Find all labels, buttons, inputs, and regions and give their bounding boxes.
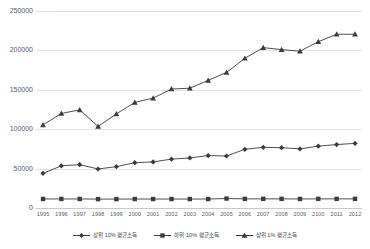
data-point-marker — [114, 197, 118, 201]
data-point-marker — [78, 197, 82, 201]
x-axis-tick-label: 2004 — [202, 211, 215, 217]
data-point-marker — [260, 45, 266, 50]
data-point-marker — [279, 197, 283, 201]
data-point-marker — [206, 153, 211, 158]
data-point-marker — [133, 197, 137, 201]
data-point-marker — [59, 197, 63, 201]
x-axis-tick-label: 1999 — [110, 211, 123, 217]
data-point-marker — [334, 142, 339, 147]
x-axis-tick-label: 2008 — [275, 211, 288, 217]
data-point-marker — [241, 233, 247, 238]
data-point-marker — [114, 164, 119, 169]
x-axis-tick-label: 2000 — [128, 211, 141, 217]
data-point-marker — [298, 197, 302, 201]
data-point-marker — [315, 39, 321, 44]
data-point-marker — [261, 145, 266, 150]
data-point-marker — [353, 197, 357, 201]
data-point-marker — [297, 146, 302, 151]
data-point-marker — [169, 157, 174, 162]
legend-marker-diamond-icon — [73, 231, 90, 240]
x-axis-tick-label: 1998 — [92, 211, 105, 217]
x-axis-tick-label: 2006 — [239, 211, 252, 217]
data-point-marker — [77, 107, 83, 112]
x-axis-tick-label: 2005 — [220, 211, 233, 217]
data-series — [41, 196, 357, 201]
data-point-marker — [279, 145, 284, 150]
legend-marker-square-icon — [154, 231, 171, 240]
series-line — [43, 143, 355, 173]
series-line — [43, 199, 355, 200]
legend-item[interactable]: 하위 10% 평균소득 — [154, 231, 218, 240]
data-point-marker — [96, 197, 100, 201]
data-point-marker — [151, 159, 156, 164]
y-axis-tick-label: 150000 — [0, 86, 33, 93]
x-axis-tick-label: 1995 — [37, 211, 50, 217]
data-point-marker — [95, 166, 100, 171]
series-layer — [36, 11, 362, 208]
data-point-marker — [161, 233, 165, 237]
data-point-marker — [334, 197, 338, 201]
x-axis-tick-label: 2011 — [330, 211, 342, 217]
data-point-marker — [187, 155, 192, 160]
x-axis-tick-label: 1997 — [73, 211, 86, 217]
legend-item[interactable]: 상위 1% 평균소득 — [236, 231, 297, 240]
data-point-marker — [114, 111, 120, 116]
x-axis-tick-label: 2012 — [349, 211, 362, 217]
axis-baseline — [36, 208, 362, 209]
legend-item[interactable]: 상위 10% 평균소득 — [73, 231, 137, 240]
data-point-marker — [242, 147, 247, 152]
data-point-marker — [316, 144, 321, 149]
data-point-marker — [224, 196, 228, 200]
chart-legend: 상위 10% 평균소득하위 10% 평균소득상위 1% 평균소득 — [0, 231, 370, 240]
x-axis-tick-label: 1996 — [55, 211, 68, 217]
y-axis-tick-label: 0 — [0, 204, 33, 211]
data-point-marker — [261, 197, 265, 201]
legend-label: 상위 10% 평균소득 — [93, 233, 137, 239]
plot-area — [36, 11, 362, 208]
series-line — [43, 34, 355, 126]
data-point-marker — [150, 95, 156, 100]
data-point-marker — [59, 163, 64, 168]
data-point-marker — [77, 162, 82, 167]
data-point-marker — [79, 233, 84, 238]
data-point-marker — [188, 197, 192, 201]
data-point-marker — [132, 160, 137, 165]
x-axis-tick-label: 2100 — [312, 211, 325, 217]
x-axis-tick-label: 2002 — [165, 211, 178, 217]
data-series — [40, 141, 357, 176]
data-series — [40, 31, 358, 128]
y-axis-tick-label: 200000 — [0, 46, 33, 53]
x-axis-tick-label: 2007 — [257, 211, 270, 217]
data-point-marker — [151, 197, 155, 201]
y-axis-tick-label: 50000 — [0, 165, 33, 172]
data-point-marker — [205, 77, 211, 82]
x-axis-tick-label: 2009 — [294, 211, 307, 217]
legend-marker-triangle-icon — [236, 231, 253, 240]
data-point-marker — [40, 171, 45, 176]
line-chart: 050000100000150000200000250000 199519961… — [0, 0, 370, 249]
data-point-marker — [206, 197, 210, 201]
data-point-marker — [242, 55, 248, 60]
y-axis-tick-label: 100000 — [0, 125, 33, 132]
data-point-marker — [40, 122, 46, 127]
x-axis-tick-label: 2003 — [183, 211, 196, 217]
data-point-marker — [352, 141, 357, 146]
y-axis-tick-label: 250000 — [0, 7, 33, 14]
data-point-marker — [169, 197, 173, 201]
data-point-marker — [316, 197, 320, 201]
x-axis-tick-label: 2001 — [147, 211, 160, 217]
data-point-marker — [224, 153, 229, 158]
legend-label: 하위 10% 평균소득 — [174, 233, 218, 239]
legend-label: 상위 1% 평균소득 — [256, 233, 297, 239]
data-point-marker — [41, 197, 45, 201]
data-point-marker — [243, 197, 247, 201]
